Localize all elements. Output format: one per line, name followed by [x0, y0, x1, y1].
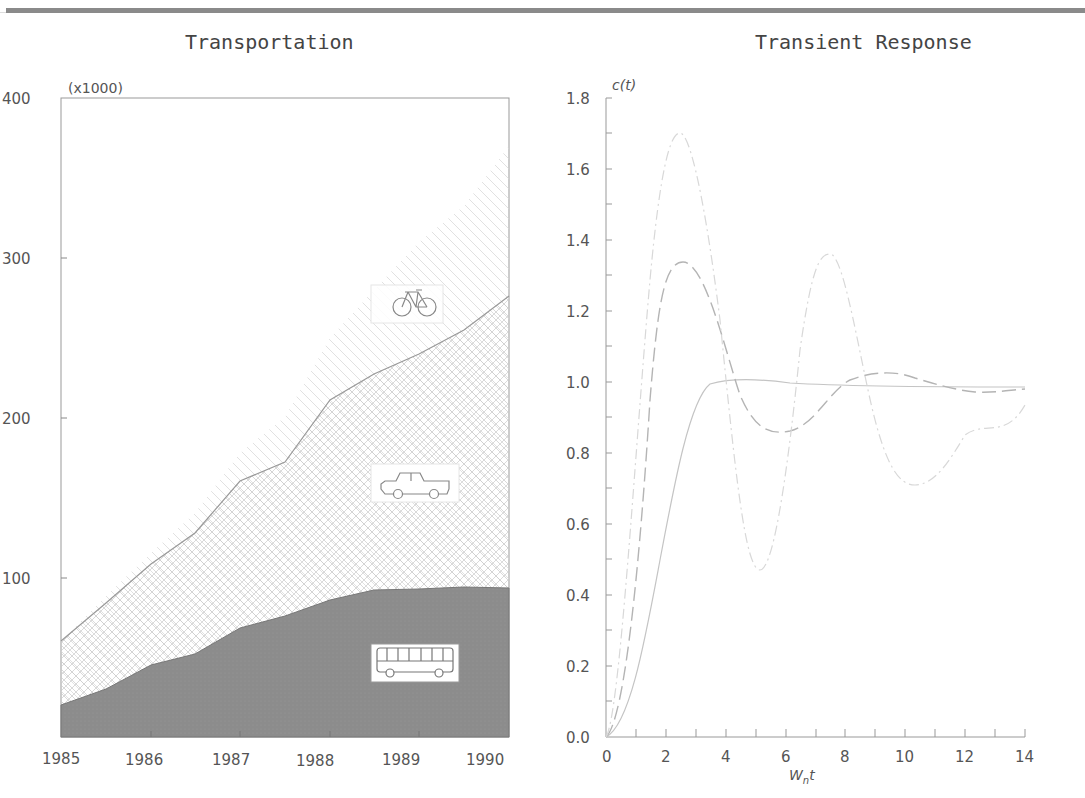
left-ytick-400: 400 — [2, 90, 31, 108]
solid-response-curve — [606, 380, 1025, 737]
right-xlabel: Wnt — [789, 767, 815, 786]
right-ytick-1.4: 1.4 — [566, 232, 590, 250]
right-ytick-1.6: 1.6 — [566, 161, 590, 179]
right-xtick-2: 2 — [661, 748, 671, 766]
right-xtick-6: 6 — [781, 748, 791, 766]
right-xtick-10: 10 — [895, 748, 914, 766]
left-unit-note: (x1000) — [68, 80, 123, 96]
bicycle-icon — [371, 285, 443, 323]
left-ytick-100: 100 — [2, 570, 31, 588]
left-ytick-300: 300 — [2, 250, 31, 268]
right-xtick-14: 14 — [1015, 748, 1034, 766]
left-xtick-1988: 1988 — [296, 752, 334, 770]
right-ytick-0.6: 0.6 — [566, 516, 590, 534]
right-ytick-0.8: 0.8 — [566, 445, 590, 463]
left-xtick-1990: 1990 — [466, 751, 504, 769]
car-icon — [371, 464, 459, 502]
bus-icon — [371, 644, 459, 682]
right-xtick-4: 4 — [721, 748, 731, 766]
left-xtick-1985: 1985 — [42, 750, 80, 768]
right-ytick-1.0: 1.0 — [566, 374, 590, 392]
transient-response-chart: 1.8 1.6 1.4 1.2 1.0 0.8 0.6 0.4 0.2 0.0 … — [566, 77, 1034, 786]
right-ytick-0.4: 0.4 — [566, 587, 590, 605]
transportation-chart: 400 300 200 100 (x1000) 1985 1986 1987 1… — [2, 80, 509, 770]
right-ylabel: c(t) — [612, 77, 636, 93]
left-ytick-200: 200 — [2, 410, 31, 428]
charts-canvas: 400 300 200 100 (x1000) 1985 1986 1987 1… — [0, 0, 1085, 798]
left-xtick-1989: 1989 — [382, 751, 420, 769]
right-ytick-1.8: 1.8 — [566, 90, 590, 108]
right-ytick-0.2: 0.2 — [566, 658, 590, 676]
left-xtick-1986: 1986 — [125, 751, 163, 769]
right-xtick-0: 0 — [602, 748, 612, 766]
left-xtick-1987: 1987 — [212, 751, 250, 769]
right-xtick-8: 8 — [840, 748, 850, 766]
right-y-ticks — [606, 133, 612, 701]
right-xtick-12: 12 — [955, 748, 974, 766]
right-ytick-1.2: 1.2 — [566, 303, 590, 321]
dashed-response-curve — [606, 262, 1025, 737]
dashdot-response-curve — [606, 133, 1025, 737]
right-ytick-0.0: 0.0 — [566, 729, 590, 747]
right-x-ticks — [636, 729, 1025, 737]
